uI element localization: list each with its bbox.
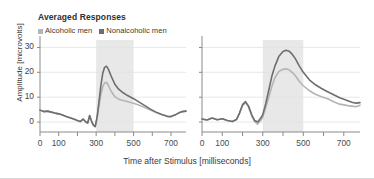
- x-tick-label: 100: [48, 138, 70, 148]
- shaded-band: [96, 40, 133, 132]
- shaded-band: [263, 40, 304, 132]
- chart-figure: Averaged Responses Alcoholic men Nonalco…: [0, 0, 374, 179]
- x-tick-label: 0: [191, 138, 213, 148]
- plot-area-left: [0, 0, 190, 155]
- x-tick-label: 300: [252, 138, 274, 148]
- y-tick-label: 0: [18, 116, 34, 126]
- chart-panel-left: Averaged Responses Alcoholic men Nonalco…: [0, 0, 190, 155]
- x-tick-label: 100: [211, 138, 233, 148]
- x-tick-label: 500: [292, 138, 314, 148]
- y-tick-label: 10: [18, 91, 34, 101]
- x-tick-label: 500: [123, 138, 145, 148]
- y-tick-label: 30: [18, 41, 34, 51]
- x-tick-label: 700: [160, 138, 182, 148]
- plot-area-right: [190, 0, 374, 155]
- y-tick-label: 20: [18, 66, 34, 76]
- chart-panel-right: Children of alcoholic men Children of no…: [190, 0, 374, 155]
- x-tick-label: 300: [85, 138, 107, 148]
- x-axis-title: Time after Stimulus [milliseconds]: [0, 156, 374, 166]
- x-tick-label: 700: [333, 138, 355, 148]
